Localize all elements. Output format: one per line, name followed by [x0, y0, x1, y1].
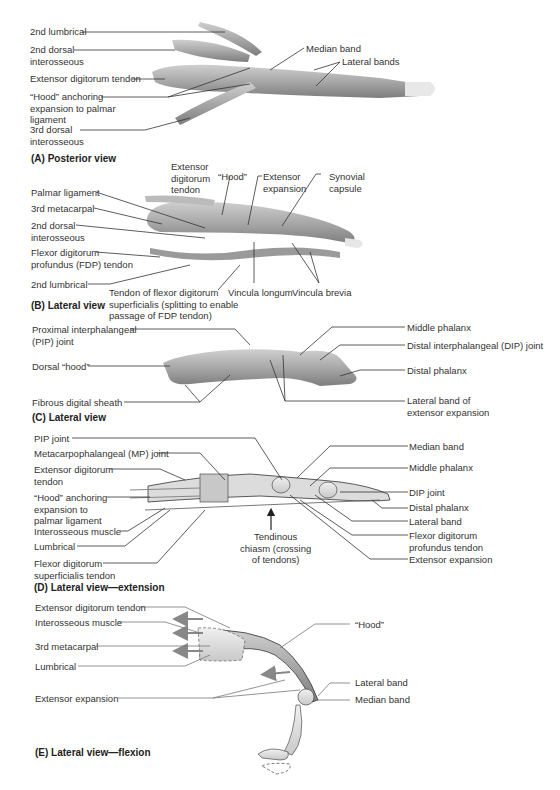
- label-extensor-digitorum-tendon: Extensor digitorum tendon: [171, 161, 210, 196]
- label-synovial-capsule: Synovial capsule: [329, 171, 365, 194]
- label-median-band: Median band: [306, 43, 361, 55]
- leader-line: [280, 624, 350, 648]
- label-fds-tendon: Flexor digitorum superficialis tendon: [34, 558, 115, 581]
- fingertip-shape: [405, 82, 435, 96]
- middle-phalanx-shape: [284, 705, 302, 755]
- leader-line: [270, 48, 304, 70]
- label-2nd-dorsal-interosseous: 2nd dorsal interosseous: [31, 220, 85, 243]
- leader-line: [318, 683, 350, 696]
- leader-line: [118, 680, 285, 698]
- label-3rd-metacarpal: 3rd metacarpal: [31, 203, 94, 215]
- label-vincula-brevia: Vincula brevia: [292, 287, 352, 299]
- label-extensor-expansion: Extensor expansion: [35, 693, 118, 705]
- distal-phalanx-shape: [258, 749, 288, 760]
- caption-panel-a: (A) Posterior view: [31, 153, 116, 164]
- label-palmar-ligament: Palmar ligament: [31, 187, 100, 199]
- label-hood: “Hood”: [355, 619, 384, 631]
- label-dip-joint: Distal interphalangeal (DIP) joint: [407, 340, 543, 352]
- label-extensor-digitorum-tendon: Extensor digitorum tendon: [30, 73, 141, 85]
- distal-phalanx-outline: [262, 763, 290, 774]
- leader-line: [78, 655, 210, 666]
- leader-line: [185, 607, 230, 628]
- label-middle-phalanx: Middle phalanx: [409, 462, 473, 474]
- caption-panel-e: (E) Lateral view—flexion: [35, 747, 151, 758]
- label-middle-phalanx: Middle phalanx: [407, 322, 471, 334]
- label-pip-joint: PIP joint: [34, 433, 69, 445]
- fingertip-shape: [345, 238, 363, 248]
- label-distal-phalanx: Distal phalanx: [409, 502, 469, 514]
- label-lateral-bands: Lateral bands: [342, 56, 400, 68]
- panel-b-illustration: [76, 174, 363, 290]
- label-extensor-expansion: Extensor expansion: [409, 554, 492, 566]
- label-lumbrical: Lumbrical: [35, 661, 76, 673]
- leader-line: [110, 469, 185, 480]
- leader-line: [124, 385, 200, 402]
- pull-arrow-icon: [268, 672, 290, 674]
- label-tendinous-chiasm: Tendinous chiasm (crossing of tendons): [240, 531, 311, 566]
- leader-line: [297, 446, 408, 478]
- label-vincula-longum: Vincula longum: [228, 287, 293, 299]
- label-2nd-lumbrical: 2nd lumbrical: [31, 279, 88, 291]
- label-dip-joint: DIP joint: [409, 487, 445, 499]
- leader-line: [118, 622, 200, 633]
- label-fdp-tendon: Flexor digitorum profundus (FDP) tendon: [31, 247, 133, 270]
- label-pip-joint: Proximal interphalangeal (PIP) joint: [32, 324, 137, 347]
- label-extensor-digitorum-tendon: Extensor digitorum tendon: [35, 602, 146, 614]
- label-median-band: Median band: [409, 441, 464, 453]
- label-3rd-metacarpal: 3rd metacarpal: [35, 641, 98, 653]
- caption-panel-b: (B) Lateral view: [31, 300, 105, 311]
- label-dorsal-hood: Dorsal “hood”: [32, 361, 90, 373]
- label-extensor-expansion: Extensor expansion: [263, 171, 306, 194]
- label-2nd-dorsal-interosseous: 2nd dorsal interosseous: [30, 44, 84, 67]
- leader-line: [310, 252, 319, 283]
- dip-joint-shape: [319, 482, 337, 498]
- label-extensor-digitorum-tendon: Extensor digitorum tendon: [34, 464, 113, 487]
- label-3rd-dorsal-interosseous: 3rd dorsal interosseous: [30, 124, 84, 147]
- caption-panel-c: (C) Lateral view: [32, 412, 106, 423]
- leader-line: [300, 500, 408, 535]
- leader-line: [235, 329, 250, 345]
- pip-joint-shape: [272, 477, 290, 493]
- flexor-tendon-line: [145, 500, 380, 510]
- label-hood: “Hood”: [218, 171, 247, 183]
- label-lateral-band: Lateral band: [355, 677, 408, 689]
- label-mp-joint: Metacarpophalangeal (MP) joint: [34, 448, 169, 460]
- leader-line: [213, 690, 300, 698]
- label-fibrous-digital-sheath: Fibrous digital sheath: [32, 397, 122, 409]
- finger-dorsal-shape: [147, 202, 355, 244]
- leader-line: [255, 438, 282, 480]
- leader-line: [300, 327, 405, 355]
- label-interosseous-muscle: Interosseous muscle: [35, 617, 122, 629]
- label-lateral-band: Lateral band: [409, 516, 462, 528]
- label-interosseous-muscle: Interosseous muscle: [34, 526, 121, 538]
- label-lateral-band-extensor-expansion: Lateral band of extensor expansion: [407, 395, 489, 418]
- pip-joint-shape: [298, 689, 314, 705]
- label-hood-anchoring-expansion: “Hood” anchoring expansion to palmar lig…: [34, 492, 107, 527]
- label-fds-tendon: Tendon of flexor digitorum superficialis…: [109, 287, 238, 322]
- label-lumbrical: Lumbrical: [34, 541, 75, 553]
- caption-panel-d: (D) Lateral view—extension: [34, 582, 165, 593]
- label-fdp-tendon: Flexor digitorum profundus tendon: [409, 530, 483, 553]
- label-distal-phalanx: Distal phalanx: [407, 365, 467, 377]
- label-2nd-lumbrical: 2nd lumbrical: [30, 26, 87, 38]
- label-hood-anchoring-expansion: “Hood” anchoring expansion to palmar lig…: [30, 91, 116, 126]
- label-median-band: Median band: [355, 694, 410, 706]
